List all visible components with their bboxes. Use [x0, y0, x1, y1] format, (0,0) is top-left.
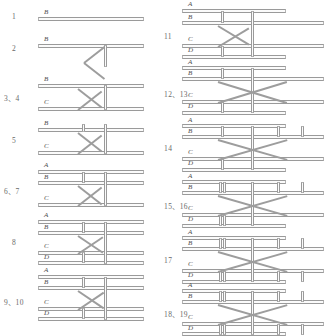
figure-number: 5	[12, 136, 16, 145]
vertical-post	[104, 85, 107, 110]
chord-bar	[182, 289, 286, 293]
bar-label-C: C	[188, 314, 193, 321]
vertical-post	[104, 222, 107, 264]
vertical-post	[219, 271, 222, 282]
figure-1: 1 B	[0, 0, 164, 32]
figure-6-7: 6、7 A B C	[0, 161, 164, 211]
figure-14: 14 A B C D	[164, 118, 328, 174]
vertical-post	[82, 252, 85, 263]
vertical-post	[221, 102, 224, 113]
chord-bar	[182, 236, 286, 240]
vertical-post	[219, 324, 222, 335]
vertical-post	[104, 45, 107, 67]
vertical-post	[82, 124, 85, 132]
bar-label-A: A	[188, 229, 192, 236]
figure-number: 3、4	[4, 92, 20, 103]
bar-label-C: C	[188, 36, 193, 43]
figure-number: 15、16	[164, 200, 188, 211]
chord-bar	[38, 286, 144, 290]
chord-bar	[182, 9, 286, 13]
bar-label-A: A	[44, 267, 48, 274]
chord-bar	[38, 307, 144, 311]
bar-label-C: C	[44, 99, 49, 106]
chord-bar	[38, 220, 144, 224]
vertical-post	[223, 324, 226, 335]
diagonal-brace	[83, 46, 105, 64]
figure-12-13: 12、13 A B C D	[164, 60, 328, 118]
bar-label-B: B	[44, 9, 48, 16]
vertical-post	[277, 291, 280, 302]
figure-number: 2	[12, 44, 16, 53]
bar-label-C: C	[188, 149, 193, 156]
chord-bar	[38, 275, 144, 279]
figure-2: 2 B	[0, 32, 164, 76]
bar-label-A: A	[188, 173, 192, 180]
vertical-post	[223, 215, 226, 226]
chord-bar	[182, 280, 286, 284]
bar-label-B: B	[188, 128, 192, 135]
vertical-post	[104, 172, 107, 206]
bar-label-A: A	[188, 1, 192, 8]
vertical-post	[219, 182, 222, 193]
vertical-post	[301, 126, 304, 137]
bar-label-B: B	[188, 240, 192, 247]
vertical-post	[219, 291, 222, 302]
vertical-post	[301, 324, 304, 335]
vertical-post	[82, 222, 85, 233]
bar-label-D: D	[188, 160, 193, 167]
bar-label-C: C	[188, 92, 193, 99]
bar-label-C: C	[188, 261, 193, 268]
chord-bar	[38, 251, 144, 255]
bar-label-C: C	[44, 243, 49, 250]
bar-label-B: B	[44, 120, 48, 127]
bar-label-A: A	[44, 212, 48, 219]
figure-8: 8 A B C D	[0, 211, 164, 266]
vertical-post	[301, 182, 304, 193]
bar-label-D: D	[188, 216, 193, 223]
figure-number: 12、13	[164, 88, 188, 99]
vertical-post	[104, 277, 107, 320]
chord-bar	[38, 317, 144, 321]
figure-number: 11	[164, 32, 172, 41]
chord-bar	[182, 332, 286, 336]
bar-label-A: A	[188, 282, 192, 289]
bar-label-B: B	[44, 76, 48, 83]
chord-bar	[38, 170, 144, 174]
vertical-post	[301, 238, 304, 249]
figure-number: 8	[12, 238, 16, 247]
vertical-post	[277, 182, 280, 193]
vertical-post	[223, 238, 226, 249]
figure-number: 14	[164, 144, 172, 153]
vertical-post	[301, 291, 304, 302]
figure-number: 9、10	[4, 296, 24, 307]
bar-label-D: D	[188, 103, 193, 110]
bar-label-B: B	[44, 36, 48, 43]
bar-label-A: A	[188, 117, 192, 124]
chord-bar	[182, 224, 286, 228]
bar-label-D: D	[188, 272, 193, 279]
bar-label-B: B	[188, 293, 192, 300]
figure-17: 17 A B C D	[164, 230, 328, 286]
bar-label-B: B	[188, 70, 192, 77]
chord-bar	[182, 111, 286, 115]
chord-bar	[38, 128, 144, 132]
figure-number: 1	[12, 12, 16, 21]
figure-number: 6、7	[4, 185, 20, 196]
bar-label-B: B	[188, 184, 192, 191]
bar-label-A: A	[44, 162, 48, 169]
chord-bar	[38, 84, 144, 88]
chord-bar	[182, 66, 286, 70]
chord-bar	[182, 168, 286, 172]
vertical-post	[219, 215, 222, 226]
figure-number: 18、19	[164, 308, 188, 319]
vertical-post	[221, 126, 224, 137]
bar-label-D: D	[44, 310, 49, 317]
vertical-post	[301, 271, 304, 282]
vertical-post	[221, 11, 224, 23]
chord-bar	[38, 231, 144, 235]
vertical-post	[221, 46, 224, 57]
vertical-post	[221, 159, 224, 170]
bar-label-A: A	[188, 59, 192, 66]
vertical-post	[277, 238, 280, 249]
